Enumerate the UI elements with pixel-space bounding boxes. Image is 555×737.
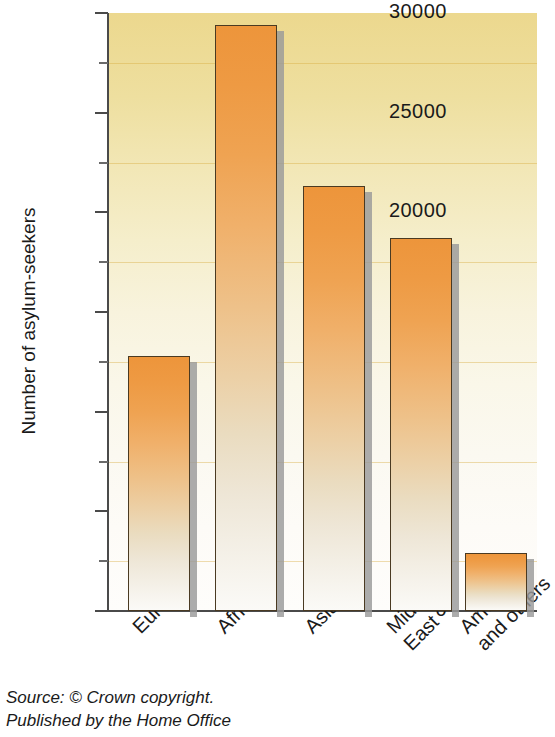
y-tick-major <box>95 510 108 512</box>
gridline <box>108 163 537 164</box>
bar-shadow <box>452 244 459 617</box>
gridline <box>108 63 537 64</box>
y-tick-major <box>95 211 108 213</box>
y-tick-major <box>95 311 108 313</box>
y-tick-minor <box>99 361 108 363</box>
bar-shadow <box>190 362 197 617</box>
bar-shadow <box>277 31 284 617</box>
bar-middle-east[interactable] <box>390 238 452 611</box>
y-tick-major <box>95 411 108 413</box>
y-tick-minor <box>99 162 108 164</box>
y-tick-major <box>95 610 108 612</box>
bar-shadow <box>365 192 372 617</box>
bar-america-and-others[interactable] <box>465 553 527 611</box>
y-tick-label-text: 30000 <box>357 0 447 23</box>
y-tick-major <box>95 112 108 114</box>
y-tick-minor <box>99 560 108 562</box>
source-line-2: Published by the Home Office <box>6 710 231 733</box>
bar-asia[interactable] <box>303 186 365 611</box>
bar-europe[interactable] <box>128 356 190 611</box>
bar-shadow <box>527 559 534 617</box>
source-line-1: Source: © Crown copyright. <box>6 687 231 710</box>
y-tick-major <box>95 12 108 14</box>
y-tick-minor <box>99 461 108 463</box>
source-note: Source: © Crown copyright. Published by … <box>6 687 231 733</box>
y-tick-minor <box>99 62 108 64</box>
y-axis-title: Number of asylum-seekers <box>18 156 40 486</box>
y-tick-label-text: 25000 <box>357 100 447 123</box>
bar-africa[interactable] <box>215 25 277 611</box>
y-tick-minor <box>99 261 108 263</box>
